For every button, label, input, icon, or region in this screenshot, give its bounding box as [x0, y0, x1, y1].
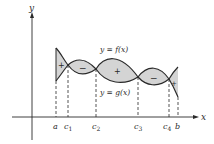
tick-b: b	[175, 122, 180, 131]
x-axis-arrow-icon	[193, 115, 199, 119]
region-2-sign: −	[79, 63, 87, 73]
region-5-sign: +	[171, 80, 177, 88]
region-4-sign: −	[150, 73, 158, 83]
region-1-sign: +	[58, 61, 65, 70]
tick-labels: a c1 c2 c3 c4 b	[53, 122, 180, 132]
region-3-sign: +	[114, 67, 121, 76]
curve-g-label: y = g(x)	[99, 88, 130, 97]
y-axis-label: y	[28, 3, 35, 13]
tick-c4: c4	[163, 122, 171, 132]
tick-c1: c1	[64, 122, 72, 132]
tick-c2: c2	[92, 122, 100, 132]
curve-f-label: y = f(x)	[99, 45, 128, 54]
x-axis-label: x	[201, 112, 206, 122]
tick-a: a	[53, 122, 58, 131]
tick-c3: c3	[134, 122, 142, 132]
area-between-curves-diagram: x y y = f(x) y = g(x) + − + − + a c1 c2 …	[0, 0, 214, 144]
